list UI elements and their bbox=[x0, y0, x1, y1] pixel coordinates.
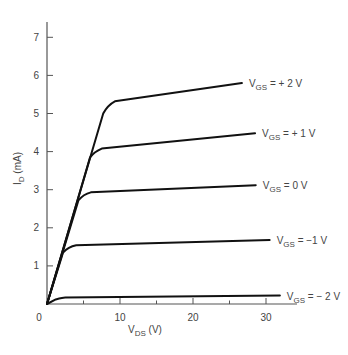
origin-label: 0 bbox=[36, 312, 42, 323]
y-tick-label: 7 bbox=[33, 32, 39, 43]
curve-4 bbox=[47, 296, 280, 304]
y-tick-label: 6 bbox=[33, 70, 39, 81]
y-tick-label: 2 bbox=[33, 222, 39, 233]
y-tick-label: 5 bbox=[33, 108, 39, 119]
axes bbox=[47, 22, 297, 304]
curve-0 bbox=[47, 83, 242, 304]
curve-label-0: VGS = + 2 V bbox=[249, 78, 303, 92]
curve-label-4: VGS = − 2 V bbox=[287, 291, 341, 305]
x-tick-label: 10 bbox=[114, 312, 126, 323]
id-vds-characteristic-chart: 10203001234567VGS = + 2 VVGS = + 1 VVGS … bbox=[0, 0, 348, 355]
labels: 10203001234567VGS = + 2 VVGS = + 1 VVGS … bbox=[12, 32, 340, 338]
y-tick-label: 4 bbox=[33, 146, 39, 157]
curve-3 bbox=[47, 240, 270, 304]
y-tick-label: 3 bbox=[33, 184, 39, 195]
y-tick-label: 1 bbox=[33, 260, 39, 271]
curve-label-3: VGS = −1 V bbox=[277, 235, 328, 249]
curve-label-2: VGS = 0 V bbox=[263, 180, 308, 194]
x-tick-label: 30 bbox=[260, 312, 272, 323]
curve-1 bbox=[47, 133, 255, 304]
x-axis-label: VDS (V) bbox=[128, 324, 162, 338]
curves bbox=[47, 83, 280, 304]
curve-label-1: VGS = + 1 V bbox=[262, 128, 316, 142]
y-axis-label: ID (mA) bbox=[12, 152, 26, 185]
x-tick-label: 20 bbox=[187, 312, 199, 323]
